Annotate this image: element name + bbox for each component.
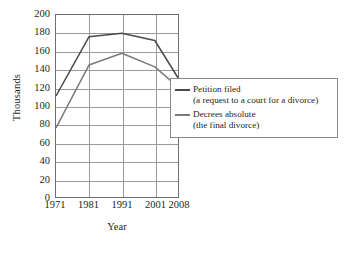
- y-tick-label: 180: [18, 27, 50, 38]
- x-tick-label: 2001: [145, 200, 166, 211]
- y-tick-label: 60: [18, 138, 50, 149]
- plot-area: [55, 14, 179, 198]
- y-tick-label: 40: [18, 156, 50, 167]
- legend-label: Decrees absolute(the final divorce): [193, 109, 259, 131]
- y-axis-tick-labels: 020406080100120140160180200: [18, 14, 50, 198]
- y-tick-label: 120: [18, 82, 50, 93]
- y-tick-label: 140: [18, 64, 50, 75]
- x-tick-label: 1991: [111, 200, 132, 211]
- legend-line-swatch-icon: [175, 109, 190, 120]
- legend-series-name: Petition filed: [193, 84, 318, 95]
- x-tick-label: 1981: [78, 200, 99, 211]
- legend-series-name: Decrees absolute: [193, 109, 259, 120]
- legend-line-swatch-icon: [175, 84, 190, 95]
- chart-legend: Petition filed(a request to a court for …: [170, 78, 338, 138]
- legend-series-sublabel: (the final divorce): [193, 120, 259, 131]
- y-tick-label: 20: [18, 174, 50, 185]
- x-axis-title: Year: [55, 221, 179, 232]
- y-tick-label: 100: [18, 101, 50, 112]
- legend-entry: Decrees absolute(the final divorce): [175, 109, 331, 131]
- y-tick-label: 80: [18, 119, 50, 130]
- legend-label: Petition filed(a request to a court for …: [193, 84, 318, 106]
- legend-series-sublabel: (a request to a court for a divorce): [193, 95, 318, 106]
- x-tick-label: 2008: [169, 200, 190, 211]
- legend-entry: Petition filed(a request to a court for …: [175, 84, 331, 106]
- x-tick-label: 1971: [45, 200, 66, 211]
- series-lines: [56, 15, 178, 197]
- x-axis-tick-labels: 19711981199120012008: [0, 200, 220, 214]
- divorce-line-chart: Thousands 020406080100120140160180200 19…: [0, 0, 346, 254]
- y-tick-label: 160: [18, 46, 50, 57]
- y-tick-label: 200: [18, 9, 50, 20]
- series-line: [56, 33, 178, 96]
